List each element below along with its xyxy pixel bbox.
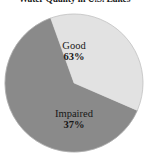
pie-label-impaired: Impaired 37% <box>38 108 110 130</box>
pie-label-impaired-name: Impaired <box>38 108 110 119</box>
pie-chart-figure: Water Quality in U.S. Lakes Good 63% Imp… <box>0 0 149 154</box>
pie-label-good-name: Good <box>40 40 108 51</box>
pie-label-good-value: 63% <box>40 51 108 62</box>
pie-label-good: Good 63% <box>40 40 108 62</box>
pie-label-impaired-value: 37% <box>38 119 110 130</box>
pie-chart-canvas <box>0 0 149 154</box>
